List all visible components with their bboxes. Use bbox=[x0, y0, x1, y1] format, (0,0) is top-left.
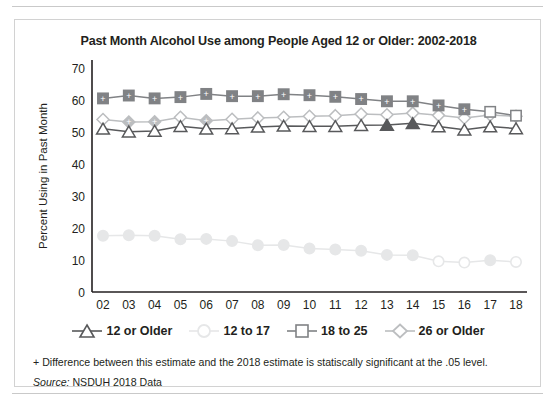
data-point-circle bbox=[227, 236, 237, 246]
data-point-circle bbox=[149, 230, 159, 240]
x-tick-label: 16 bbox=[458, 298, 472, 312]
data-point-circle bbox=[253, 240, 263, 250]
significance-marker: + bbox=[384, 97, 389, 107]
source-text: NSDUH 2018 Data bbox=[72, 376, 162, 388]
x-tick-label: 10 bbox=[303, 298, 317, 312]
data-point-circle bbox=[330, 244, 340, 254]
legend-label-12-to-17: 12 to 17 bbox=[223, 324, 270, 338]
x-tick-label: 13 bbox=[380, 298, 394, 312]
data-point-circle bbox=[433, 256, 443, 266]
x-tick-label: 06 bbox=[200, 298, 214, 312]
top-divider bbox=[12, 6, 543, 7]
chart-legend: 12 or Older 12 to 17 18 to 25 bbox=[15, 323, 542, 339]
x-tick-label: 15 bbox=[432, 298, 446, 312]
y-tick-label: 40 bbox=[72, 158, 86, 172]
data-point-square bbox=[485, 107, 495, 117]
data-point-circle bbox=[175, 234, 185, 244]
data-point-square bbox=[511, 110, 521, 120]
significance-marker: + bbox=[255, 92, 260, 102]
legend-label-12-or-older: 12 or Older bbox=[106, 324, 172, 338]
data-point-circle bbox=[98, 230, 108, 240]
x-tick-label: 17 bbox=[484, 298, 498, 312]
significance-marker: + bbox=[333, 92, 338, 102]
significance-marker: + bbox=[436, 101, 441, 111]
series-12-to-17 bbox=[98, 230, 521, 268]
legend-marker-triangle bbox=[72, 323, 102, 339]
x-tick-label: 05 bbox=[174, 298, 188, 312]
significance-marker: + bbox=[100, 94, 105, 104]
data-point-circle bbox=[356, 246, 366, 256]
x-tick-label: 11 bbox=[329, 298, 342, 312]
legend-item-18-to-25[interactable]: 18 to 25 bbox=[287, 323, 368, 339]
line-chart: 0102030405060700203040506070809101112131… bbox=[15, 20, 542, 330]
y-tick-label: 30 bbox=[72, 190, 86, 204]
significance-marker: + bbox=[229, 92, 234, 102]
x-tick-label: 09 bbox=[277, 298, 291, 312]
legend-item-12-to-17[interactable]: 12 to 17 bbox=[189, 323, 270, 339]
significance-marker: + bbox=[204, 89, 209, 99]
x-tick-label: 04 bbox=[148, 298, 162, 312]
x-tick-label: 12 bbox=[354, 298, 368, 312]
significance-marker: + bbox=[178, 93, 183, 103]
data-point-circle bbox=[382, 250, 392, 260]
data-point-circle bbox=[304, 243, 314, 253]
y-tick-label: 60 bbox=[72, 94, 86, 108]
data-point-circle bbox=[408, 250, 418, 260]
legend-label-18-to-25: 18 to 25 bbox=[321, 324, 368, 338]
significance-marker: + bbox=[410, 97, 415, 107]
significance-marker: + bbox=[358, 94, 363, 104]
y-tick-label: 50 bbox=[72, 126, 86, 140]
x-tick-label: 03 bbox=[122, 298, 136, 312]
legend-label-26-or-older: 26 or Older bbox=[419, 324, 485, 338]
bottom-divider bbox=[12, 393, 543, 394]
data-point-circle bbox=[511, 257, 521, 267]
source-prefix: Source: bbox=[33, 376, 70, 388]
legend-item-12-or-older[interactable]: 12 or Older bbox=[72, 323, 172, 339]
y-tick-label: 0 bbox=[78, 286, 85, 300]
data-point-circle bbox=[124, 230, 134, 240]
significance-marker: + bbox=[152, 94, 157, 104]
x-tick-label: 08 bbox=[251, 298, 265, 312]
source-line: Source: NSDUH 2018 Data bbox=[33, 376, 533, 388]
data-point-circle bbox=[485, 255, 495, 265]
data-point-circle bbox=[459, 257, 469, 267]
x-tick-label: 07 bbox=[225, 298, 239, 312]
legend-item-26-or-older[interactable]: 26 or Older bbox=[385, 323, 485, 339]
legend-marker-diamond bbox=[385, 323, 415, 339]
legend-marker-square bbox=[287, 323, 317, 339]
significance-marker: + bbox=[462, 105, 467, 115]
figure-page: Past Month Alcohol Use among People Aged… bbox=[0, 0, 555, 414]
x-tick-label: 18 bbox=[509, 298, 523, 312]
significance-marker: + bbox=[307, 91, 312, 101]
y-tick-label: 70 bbox=[72, 62, 86, 76]
y-tick-label: 20 bbox=[72, 222, 86, 236]
data-point-circle bbox=[278, 240, 288, 250]
legend-marker-circle bbox=[189, 323, 219, 339]
footnote: + Difference between this estimate and t… bbox=[33, 356, 533, 368]
significance-marker: + bbox=[281, 90, 286, 100]
x-tick-label: 02 bbox=[96, 298, 110, 312]
significance-marker: + bbox=[126, 91, 131, 101]
y-tick-label: 10 bbox=[72, 254, 86, 268]
x-tick-label: 14 bbox=[406, 298, 420, 312]
figure-container: Past Month Alcohol Use among People Aged… bbox=[14, 19, 541, 387]
data-point-circle bbox=[201, 234, 211, 244]
